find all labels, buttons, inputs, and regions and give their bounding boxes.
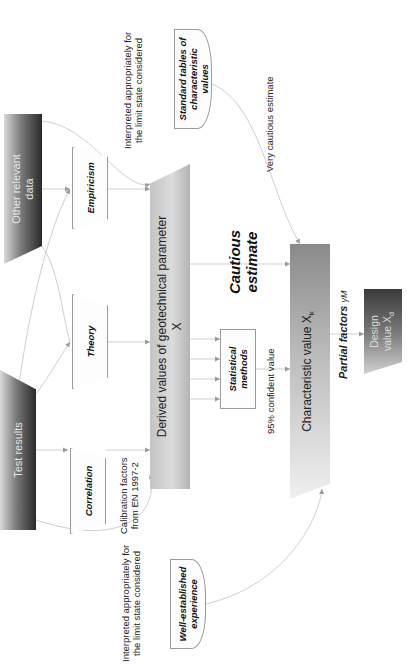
very-cautious-estimate-label: Very cautious estimate xyxy=(264,76,275,172)
derived-values-label: Derived values of geotechnical parameter xyxy=(155,216,170,437)
test-results-node: Test results xyxy=(0,370,36,530)
statistical-methods-node: Statistical methods xyxy=(220,329,256,409)
characteristic-value-label: Characteristic value Xk xyxy=(300,311,319,432)
flowchart-canvas: Test results Other relevant data Correla… xyxy=(0,0,407,664)
statistical-methods-label: Statistical methods xyxy=(227,339,249,399)
well-established-experience-node: Well-established experience xyxy=(170,559,206,649)
theory-label: Theory xyxy=(85,326,96,358)
correlation-node: Correlation xyxy=(70,448,106,534)
confident-value-label: 95% confident value xyxy=(265,348,276,434)
partial-factors-label: Partial factors γM xyxy=(338,291,350,379)
other-relevant-data-node: Other relevant data xyxy=(4,114,42,264)
theory-node: Theory xyxy=(72,294,108,389)
interpreted-bottom-label: Interpreted appropriately for the limit … xyxy=(120,545,142,662)
interpreted-top-label: Interpreted appropriately for the limit … xyxy=(122,32,144,149)
cautious-estimate-label: Cautious estimate xyxy=(226,222,260,302)
empiricism-node: Empiricism xyxy=(72,147,108,229)
design-value-node: Design value Xd xyxy=(364,289,402,374)
standard-tables-label: Standard tables of characteristic values xyxy=(177,34,210,124)
derived-values-symbol: X xyxy=(170,323,185,331)
design-value-line1: Design xyxy=(368,315,381,348)
derived-values-node: Derived values of geotechnical parameter… xyxy=(150,164,190,489)
well-established-experience-label: Well-established experience xyxy=(177,564,199,644)
empiricism-label: Empiricism xyxy=(85,162,96,213)
standard-tables-node: Standard tables of characteristic values xyxy=(174,29,212,129)
characteristic-value-node: Characteristic value Xk xyxy=(290,244,330,499)
test-results-label: Test results xyxy=(12,422,25,478)
calibration-factors-label: Calibration factors from EN 1997-2 xyxy=(118,457,140,534)
design-value-line2: value Xd xyxy=(381,312,398,351)
other-relevant-data-label: Other relevant data xyxy=(10,144,36,234)
correlation-label: Correlation xyxy=(83,466,94,517)
